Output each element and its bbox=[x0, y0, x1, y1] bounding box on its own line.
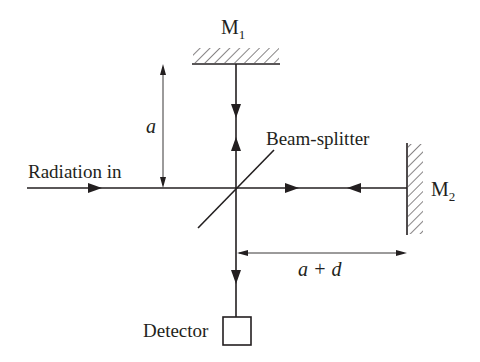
mirror-m1-label: M1 bbox=[221, 16, 245, 42]
arrow-down-icon bbox=[231, 104, 241, 118]
radiation-in-label: Radiation in bbox=[28, 161, 122, 182]
detector-label: Detector bbox=[143, 320, 209, 341]
beam-splitter-label: Beam-splitter bbox=[266, 128, 370, 149]
detector-box bbox=[223, 317, 251, 345]
dimension-a-plus-d-label: a + d bbox=[298, 258, 342, 280]
mirror-m1 bbox=[192, 48, 280, 64]
dimension-a-plus-d bbox=[237, 250, 407, 256]
arrow-left-icon bbox=[347, 183, 361, 193]
mirror-m2 bbox=[407, 143, 423, 235]
arrow-right-icon bbox=[88, 183, 102, 193]
interferometer-diagram: M1 M2 Beam-splitter Radiation in a a + d… bbox=[0, 0, 480, 362]
dimension-a bbox=[160, 64, 166, 188]
arrow-right-icon bbox=[285, 183, 299, 193]
arrow-up-icon bbox=[231, 137, 241, 151]
dimension-a-label: a bbox=[146, 115, 156, 137]
mirror-m2-label: M2 bbox=[431, 178, 455, 204]
arrow-down-icon bbox=[231, 270, 241, 284]
